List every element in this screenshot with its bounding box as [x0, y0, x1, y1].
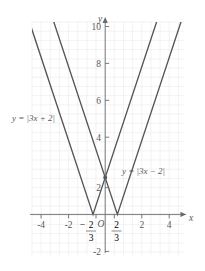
y-axis-ticks	[105, 27, 109, 252]
x-tick-two-thirds-numerator: 2	[114, 220, 119, 230]
right-curve-label: y = |3x − 2|	[121, 166, 165, 176]
y-tick-8: 8	[96, 59, 101, 69]
y-axis-arrow	[103, 17, 108, 23]
x-axis-arrow	[181, 212, 187, 217]
graph-figure: x y 10 8 6 4 2 -2 -4 -2 2 4 − 2 3 2 3 O …	[0, 0, 205, 271]
x-tick-neg-two-thirds: − 2 3	[80, 220, 96, 243]
grid-lines	[32, 22, 184, 255]
origin-label: O	[98, 219, 105, 229]
x-tick-2: 2	[139, 220, 144, 230]
x-tick-two-thirds-denominator: 3	[114, 233, 119, 243]
x-tick-neg2: -2	[65, 220, 73, 230]
curves	[3, 0, 205, 214]
x-tick-neg-two-thirds-denominator: 3	[89, 233, 94, 243]
y-tick-4: 4	[96, 133, 101, 143]
x-tick-two-thirds: 2 3	[112, 220, 122, 243]
curve-abs-3x-plus-2	[3, 0, 205, 214]
x-tick-neg-two-thirds-sign: −	[80, 220, 85, 230]
y-tick-6: 6	[96, 96, 101, 106]
x-tick-neg4: -4	[37, 220, 45, 230]
y-tick-neg2: -2	[93, 247, 101, 257]
y-tick-10: 10	[92, 22, 102, 32]
graph-svg: x y 10 8 6 4 2 -2 -4 -2 2 4 − 2 3 2 3 O …	[0, 0, 205, 271]
y-tick-2: 2	[96, 183, 101, 193]
left-curve-label: y = |3x + 2|	[11, 113, 55, 123]
y-axis	[103, 17, 110, 253]
x-axis-label: x	[188, 213, 194, 223]
x-tick-4: 4	[167, 220, 172, 230]
x-tick-neg-two-thirds-numerator: 2	[89, 220, 94, 230]
